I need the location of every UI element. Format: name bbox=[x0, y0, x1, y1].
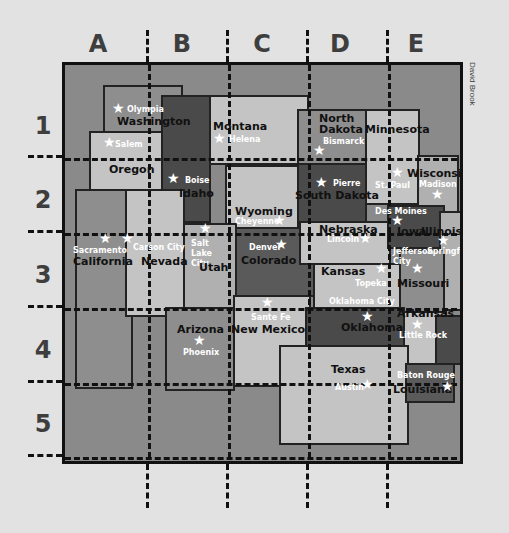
star-icon: ★ bbox=[199, 221, 212, 235]
star-icon: ★ bbox=[315, 175, 328, 189]
star-icon: ★ bbox=[213, 131, 226, 145]
capital-bismarck: Bismarck bbox=[323, 137, 364, 146]
capital-st-paul: St. Paul bbox=[375, 181, 410, 190]
grid-row-2: 2 bbox=[28, 186, 58, 214]
grid-line-5end bbox=[65, 457, 463, 460]
capital-olympia: Olympia bbox=[127, 105, 164, 114]
star-icon: ★ bbox=[411, 317, 424, 331]
state-label-south-dakota: South Dakota bbox=[295, 189, 379, 202]
capital-little-rock: Little Rock bbox=[399, 331, 447, 340]
grid-ext-de-top bbox=[386, 30, 389, 62]
grid-ext-34-left bbox=[28, 305, 62, 308]
state-label-idaho: Idaho bbox=[179, 187, 214, 200]
star-icon: ★ bbox=[375, 261, 388, 275]
star-icon: ★ bbox=[99, 231, 112, 245]
grid-ext-ab-top bbox=[146, 30, 149, 62]
capital-sacramento: Sacramento bbox=[73, 246, 127, 255]
state-label-colorado: Colorado bbox=[241, 254, 296, 267]
grid-col-a: A bbox=[78, 30, 118, 58]
state-label-missouri: Missouri bbox=[397, 277, 449, 290]
star-icon: ★ bbox=[431, 187, 444, 201]
star-icon: ★ bbox=[261, 295, 274, 309]
star-icon: ★ bbox=[193, 333, 206, 347]
capital-helena: Helena bbox=[229, 135, 260, 144]
state-nevada[interactable] bbox=[125, 189, 185, 317]
grid-ext-5end-left bbox=[28, 454, 62, 457]
state-label-california: California bbox=[73, 255, 133, 268]
grid-ext-bc-top bbox=[226, 30, 229, 62]
capital-pierre: Pierre bbox=[333, 179, 360, 188]
capital-phoenix: Phoenix bbox=[183, 348, 219, 357]
star-icon: ★ bbox=[441, 379, 454, 393]
state-label-north-dakota: North Dakota bbox=[319, 113, 369, 135]
capital-sante-fe: Sante Fe bbox=[251, 313, 290, 322]
state-label-oregon: Oregon bbox=[109, 163, 155, 176]
capital-austin: Austin bbox=[335, 383, 364, 392]
grid-row-5: 5 bbox=[28, 410, 58, 438]
state-label-new-mexico: New Mexico bbox=[231, 323, 305, 336]
grid-ext-45-left bbox=[28, 380, 62, 383]
capital-boise: Boise bbox=[185, 176, 210, 185]
grid-row-4: 4 bbox=[28, 336, 58, 364]
state-label-washington: Washington bbox=[117, 115, 191, 128]
state-label-texas: Texas bbox=[331, 363, 366, 376]
state-label-kansas: Kansas bbox=[321, 265, 365, 278]
star-icon: ★ bbox=[273, 213, 286, 227]
star-icon: ★ bbox=[391, 165, 404, 179]
star-icon: ★ bbox=[167, 171, 180, 185]
grid-ext-23-left bbox=[28, 230, 62, 233]
state-label-nevada: Nevada bbox=[141, 255, 188, 268]
state-label-minnesota: Minnesota bbox=[365, 123, 430, 136]
star-icon: ★ bbox=[361, 377, 374, 391]
capital-carson-city: Carson City bbox=[133, 243, 185, 252]
grid-col-d: D bbox=[320, 30, 360, 58]
star-icon: ★ bbox=[103, 135, 116, 149]
grid-col-e: E bbox=[396, 30, 436, 58]
grid-ext-ab-bottom bbox=[146, 464, 149, 508]
capital-lincoln: Lincoln bbox=[327, 235, 359, 244]
grid-col-b: B bbox=[162, 30, 202, 58]
grid-ext-cd-bottom bbox=[306, 464, 309, 508]
capital-salem: Salem bbox=[115, 140, 143, 149]
grid-ext-12-left bbox=[28, 155, 62, 158]
state-label-utah: Utah bbox=[199, 261, 228, 274]
star-icon: ★ bbox=[121, 231, 134, 245]
grid-row-1: 1 bbox=[28, 112, 58, 140]
star-icon: ★ bbox=[359, 231, 372, 245]
capital-oklahoma-city: Oklahoma City bbox=[329, 297, 395, 306]
star-icon: ★ bbox=[275, 237, 288, 251]
state-label-wisconsin: Wisconsin bbox=[407, 167, 463, 180]
grid-row-3: 3 bbox=[28, 261, 58, 289]
state-label-arkansas: Arkansas bbox=[397, 307, 454, 320]
star-icon: ★ bbox=[112, 101, 125, 115]
star-icon: ★ bbox=[437, 233, 450, 247]
grid-col-c: C bbox=[242, 30, 282, 58]
star-icon: ★ bbox=[411, 261, 424, 275]
grid-line-cd bbox=[308, 65, 311, 464]
state-label-oklahoma: Oklahoma bbox=[341, 321, 403, 334]
capital-topeka: Topeka bbox=[355, 279, 387, 288]
grid-line-12 bbox=[65, 158, 463, 161]
grid-ext-de-bottom bbox=[386, 464, 389, 508]
grid-ext-bc-bottom bbox=[226, 464, 229, 508]
credit-text: David Brook bbox=[468, 62, 477, 106]
map-frame: ★ Olympia Washington ★ Salem Oregon ★ Bo… bbox=[62, 62, 463, 464]
grid-ext-cd-top bbox=[306, 30, 309, 62]
state-mississippi[interactable] bbox=[435, 315, 463, 365]
star-icon: ★ bbox=[313, 143, 326, 157]
